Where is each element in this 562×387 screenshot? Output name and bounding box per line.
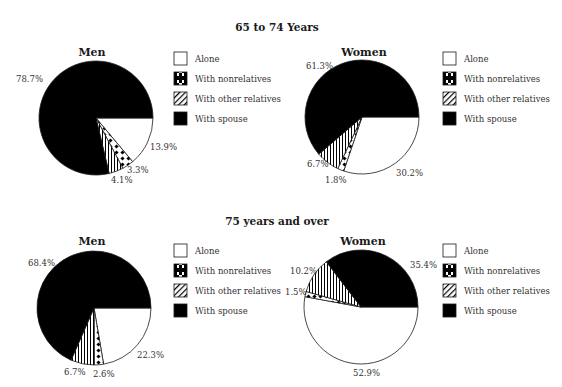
pie-title-women-65-74: Women: [340, 46, 386, 59]
legend-label-spouse: With spouse: [195, 114, 248, 124]
dotted-box-icon: [174, 72, 187, 85]
pie-title-men-75-over: Men: [78, 235, 105, 248]
label-spouse: 68.4%: [28, 258, 55, 268]
section-title-75-over: 75 years and over: [225, 215, 329, 227]
pie-title-women-75-over: Women: [339, 235, 385, 248]
pie-title-men-65-74: Men: [78, 46, 105, 59]
label-spouse: 61.3%: [306, 61, 333, 71]
hatched-box-icon: [443, 284, 456, 297]
legend-label-spouse: With spouse: [464, 306, 517, 316]
white-box-icon: [174, 52, 187, 65]
legend-label-nonrelatives: With nonrelatives: [195, 74, 271, 84]
label-alone: 52.9%: [353, 368, 380, 378]
label-alone: 22.3%: [137, 350, 164, 360]
white-box-icon: [443, 244, 456, 257]
hatched-box-icon: [174, 92, 187, 105]
figure: 65 to 74 Years 75 years and over Men Wom…: [0, 0, 562, 387]
pie-men-75-over: [37, 251, 151, 365]
white-box-icon: [443, 52, 456, 65]
black-box-icon: [174, 304, 187, 317]
legend-label-nonrelatives: With nonrelatives: [464, 74, 540, 84]
pie-women-65-74: [305, 60, 419, 174]
legend-men-65-74: Alone With nonrelatives With other relat…: [174, 52, 281, 125]
legend-label-nonrelatives: With nonrelatives: [195, 266, 271, 276]
legend-label-other-relatives: With other relatives: [195, 94, 281, 104]
legend-label-alone: Alone: [463, 246, 488, 256]
legend-label-spouse: With spouse: [464, 114, 517, 124]
white-box-icon: [174, 244, 187, 257]
label-other-relatives: 6.7%: [64, 367, 86, 377]
label-nonrelatives: 1.5%: [285, 287, 307, 297]
legend-women-75-over: Alone With nonrelatives With other relat…: [443, 244, 550, 317]
label-alone: 13.9%: [150, 142, 177, 152]
legend-label-alone: Alone: [194, 246, 219, 256]
hatched-box-icon: [443, 92, 456, 105]
legend-label-other-relatives: With other relatives: [464, 286, 550, 296]
dotted-box-icon: [174, 264, 187, 277]
label-other-relatives: 10.2%: [290, 266, 317, 276]
black-box-icon: [443, 304, 456, 317]
hatched-box-icon: [174, 284, 187, 297]
pie-men-65-74: [39, 61, 153, 175]
legend-men-75-over: Alone With nonrelatives With other relat…: [174, 244, 281, 317]
dotted-box-icon: [443, 72, 456, 85]
black-box-icon: [443, 112, 456, 125]
legend-label-other-relatives: With other relatives: [195, 286, 281, 296]
legend-label-alone: Alone: [194, 54, 219, 64]
legend-label-spouse: With spouse: [195, 306, 248, 316]
dotted-box-icon: [443, 264, 456, 277]
label-other-relatives: 6.7%: [307, 159, 329, 169]
section-title-65-74: 65 to 74 Years: [235, 21, 319, 33]
legend-women-65-74: Alone With nonrelatives With other relat…: [443, 52, 550, 125]
legend-label-nonrelatives: With nonrelatives: [464, 266, 540, 276]
legend-label-alone: Alone: [463, 54, 488, 64]
pie-women-75-over: [304, 250, 418, 364]
label-nonrelatives: 2.6%: [93, 369, 115, 379]
label-nonrelatives: 3.3%: [127, 165, 149, 175]
label-spouse: 78.7%: [16, 74, 43, 84]
legend-label-other-relatives: With other relatives: [464, 94, 550, 104]
label-nonrelatives: 1.8%: [325, 175, 347, 185]
label-alone: 30.2%: [396, 168, 423, 178]
label-other-relatives: 4.1%: [111, 175, 133, 185]
label-spouse: 35.4%: [410, 260, 437, 270]
black-box-icon: [174, 112, 187, 125]
